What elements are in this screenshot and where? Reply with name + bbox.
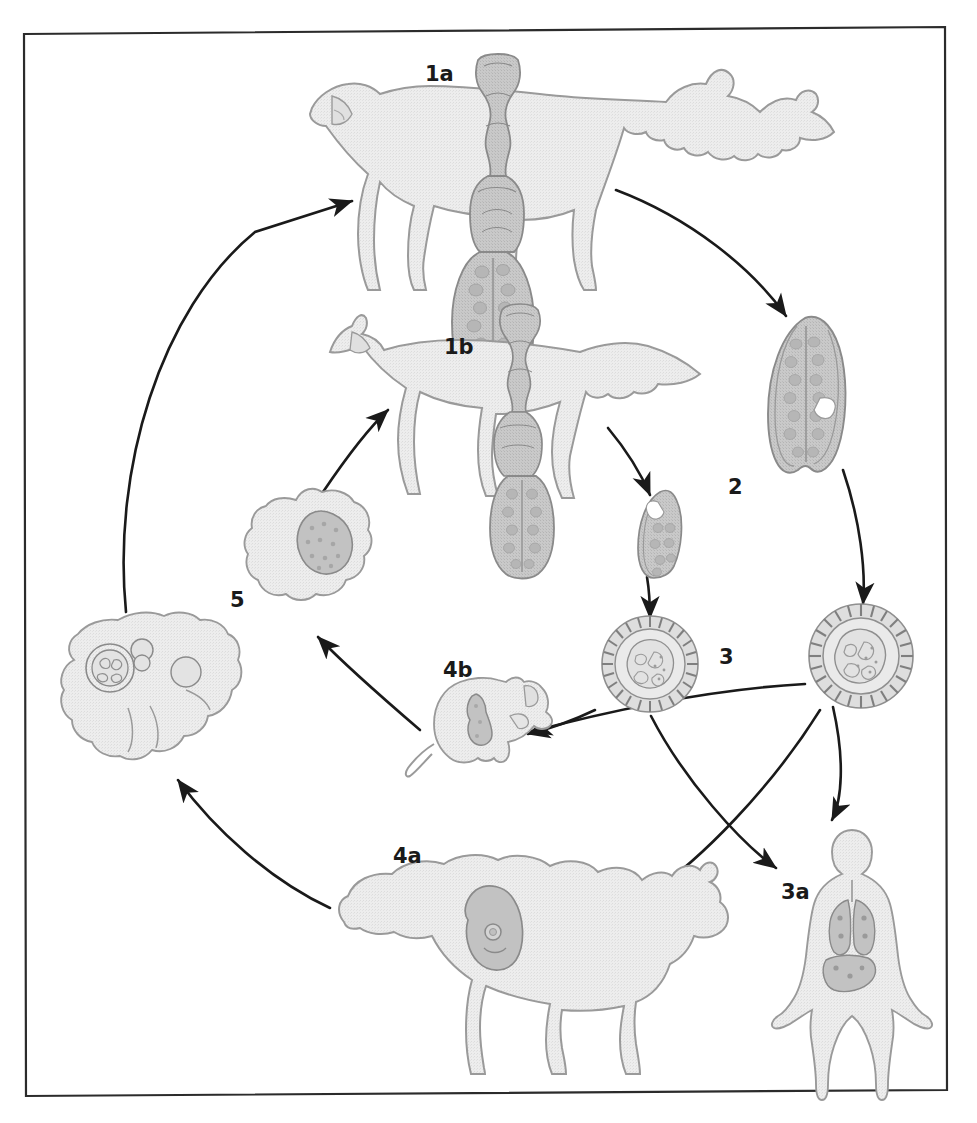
stage-label-4a: 4a bbox=[393, 846, 421, 867]
stage-label-3a: 3a bbox=[781, 882, 809, 903]
arrow-dog-to-proglottid bbox=[616, 190, 786, 316]
gravid-proglottid-small-figure bbox=[638, 491, 681, 579]
stage-label-3: 3 bbox=[719, 647, 733, 668]
human-host-figure bbox=[772, 830, 932, 1100]
diagram-canvas bbox=[0, 0, 977, 1123]
dog-host-figure bbox=[310, 70, 834, 290]
stage-label-2: 2 bbox=[728, 477, 742, 498]
life-cycle-diagram: 1a 1b 2 3 3a 4a 4b 5 bbox=[0, 0, 977, 1123]
arrow-cyst-to-fox bbox=[323, 410, 388, 492]
stage-label-1a: 1a bbox=[425, 64, 453, 85]
arrow-egg-right-to-human bbox=[832, 707, 841, 820]
arrow-proglottid-small-to-egg bbox=[647, 577, 650, 618]
stage-label-4b: 4b bbox=[443, 660, 472, 681]
arrow-rodent-to-cyst bbox=[318, 637, 420, 730]
arrow-fox-to-proglottid-small bbox=[608, 428, 650, 495]
egg-center-figure bbox=[602, 616, 698, 712]
hydatid-cyst-organ-figure bbox=[245, 489, 372, 600]
sheep-host-figure bbox=[339, 855, 728, 1074]
arrow-proglottid-to-egg bbox=[843, 470, 864, 604]
arrow-sheep-to-liver bbox=[178, 780, 330, 908]
arrow-egg-center-to-human bbox=[651, 716, 776, 868]
stage-label-1b: 1b bbox=[444, 337, 473, 358]
rodent-host-figure bbox=[406, 678, 552, 777]
arrow-egg-right-to-sheep bbox=[650, 710, 820, 894]
stage-label-5: 5 bbox=[230, 590, 244, 611]
gravid-proglottid-figure bbox=[766, 317, 845, 475]
liver-with-cysts-figure bbox=[61, 613, 241, 760]
egg-right-figure bbox=[809, 604, 913, 708]
